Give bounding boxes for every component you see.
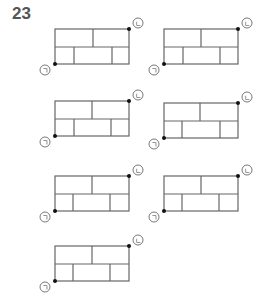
figure-4: ㄱㄴ <box>149 92 252 149</box>
end-label: ㄴ <box>244 20 250 28</box>
end-label: ㄴ <box>244 94 250 102</box>
end-label: ㄴ <box>135 92 141 100</box>
figure-5: ㄱㄴ <box>40 165 143 222</box>
end-point-dot <box>236 174 240 178</box>
end-point-dot <box>127 27 131 31</box>
start-point-dot <box>53 62 57 66</box>
end-point-dot <box>127 99 131 103</box>
start-point-dot <box>162 62 166 66</box>
end-label: ㄴ <box>135 20 141 28</box>
start-point-dot <box>162 209 166 213</box>
figure-2: ㄱㄴ <box>149 18 252 75</box>
end-label: ㄴ <box>135 167 141 175</box>
end-point-dot <box>236 101 240 105</box>
start-point-dot <box>53 279 57 283</box>
end-point-dot <box>127 174 131 178</box>
figure-7: ㄱㄴ <box>40 235 143 292</box>
end-point-dot <box>236 27 240 31</box>
start-label: ㄱ <box>151 141 157 149</box>
start-label: ㄱ <box>42 214 48 222</box>
end-label: ㄴ <box>244 167 250 175</box>
start-label: ㄱ <box>42 284 48 292</box>
start-point-dot <box>53 134 57 138</box>
start-point-dot <box>53 209 57 213</box>
end-label: ㄴ <box>135 237 141 245</box>
start-label: ㄱ <box>151 214 157 222</box>
figure-6: ㄱㄴ <box>149 165 252 222</box>
brick-path-figures: ㄱㄴㄱㄴㄱㄴㄱㄴㄱㄴㄱㄴㄱㄴ <box>0 0 260 302</box>
figure-3: ㄱㄴ <box>40 90 143 147</box>
start-label: ㄱ <box>151 67 157 75</box>
end-point-dot <box>127 244 131 248</box>
start-label: ㄱ <box>42 139 48 147</box>
start-label: ㄱ <box>42 67 48 75</box>
start-point-dot <box>162 136 166 140</box>
figure-1: ㄱㄴ <box>40 18 143 75</box>
